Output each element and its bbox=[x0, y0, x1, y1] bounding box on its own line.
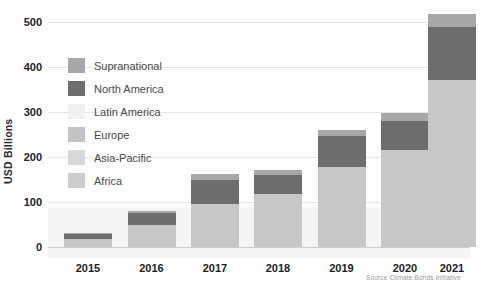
bar-segment[interactable] bbox=[381, 113, 429, 121]
bar-segment[interactable] bbox=[428, 80, 476, 247]
y-axis-tick-label: 300 bbox=[0, 107, 42, 118]
bar-group[interactable] bbox=[254, 170, 302, 247]
bar-group[interactable] bbox=[128, 211, 176, 247]
bar-segment[interactable] bbox=[254, 175, 302, 194]
bar-segment[interactable] bbox=[128, 213, 176, 224]
legend-item-label: Asia-Pacific bbox=[94, 152, 151, 164]
x-axis-line bbox=[48, 247, 470, 248]
legend-swatch-icon bbox=[68, 81, 85, 96]
legend-item-label: North America bbox=[94, 83, 164, 95]
legend-item-label: Europe bbox=[94, 129, 129, 141]
bar-segment[interactable] bbox=[191, 204, 239, 247]
legend-swatch-icon bbox=[68, 58, 85, 73]
x-axis-tick-label: 2016 bbox=[122, 262, 182, 274]
legend-item[interactable]: Europe bbox=[68, 123, 228, 146]
bar-segment[interactable] bbox=[428, 14, 476, 26]
bar-group[interactable] bbox=[428, 14, 476, 247]
legend-item[interactable]: North America bbox=[68, 77, 228, 100]
legend-item-label: Latin America bbox=[94, 106, 161, 118]
bar-segment[interactable] bbox=[318, 130, 366, 136]
x-axis-tick-label: 2017 bbox=[185, 262, 245, 274]
bar-segment[interactable] bbox=[381, 121, 429, 150]
legend-swatch-icon bbox=[68, 104, 85, 119]
legend-swatch-icon bbox=[68, 150, 85, 165]
bar-group[interactable] bbox=[318, 130, 366, 247]
legend-item-label: Supranational bbox=[94, 60, 162, 72]
x-axis-tick-label: 2019 bbox=[312, 262, 372, 274]
bar-group[interactable] bbox=[64, 233, 112, 247]
bar-segment[interactable] bbox=[318, 167, 366, 247]
bar-segment[interactable] bbox=[64, 239, 112, 247]
bar-segment[interactable] bbox=[64, 233, 112, 235]
x-axis-tick-label: 2021 bbox=[422, 262, 482, 274]
legend-item[interactable]: Latin America bbox=[68, 100, 228, 123]
legend-item[interactable]: Asia-Pacific bbox=[68, 146, 228, 169]
legend-item[interactable]: Africa bbox=[68, 169, 228, 192]
x-axis-tick-label: 2015 bbox=[58, 262, 118, 274]
y-axis-tick-label: 400 bbox=[0, 62, 42, 73]
bar-segment[interactable] bbox=[318, 136, 366, 167]
bar-group[interactable] bbox=[381, 113, 429, 247]
y-axis-tick-label: 500 bbox=[0, 17, 42, 28]
x-axis-tick-label: 2018 bbox=[248, 262, 308, 274]
legend-item-label: Africa bbox=[94, 175, 122, 187]
bar-segment[interactable] bbox=[64, 234, 112, 239]
y-axis-tick-label: 200 bbox=[0, 152, 42, 163]
y-axis-tick-label: 100 bbox=[0, 197, 42, 208]
bar-segment[interactable] bbox=[128, 225, 176, 248]
bar-segment[interactable] bbox=[254, 194, 302, 247]
legend-swatch-icon bbox=[68, 127, 85, 142]
bar-segment[interactable] bbox=[428, 27, 476, 80]
legend-swatch-icon bbox=[68, 173, 85, 188]
bar-segment[interactable] bbox=[381, 150, 429, 247]
source-attribution: Source Climate Bonds Initiative bbox=[366, 274, 461, 281]
y-axis-tick-label: 0 bbox=[0, 242, 42, 253]
bar-segment[interactable] bbox=[128, 211, 176, 214]
legend-item[interactable]: Supranational bbox=[68, 54, 228, 77]
chart-legend: SupranationalNorth AmericaLatin AmericaE… bbox=[68, 54, 228, 192]
gridline bbox=[48, 22, 470, 23]
bar-segment[interactable] bbox=[254, 170, 302, 175]
stacked-bar-chart: USD Billions 5004003002001000 2015201620… bbox=[0, 0, 486, 295]
